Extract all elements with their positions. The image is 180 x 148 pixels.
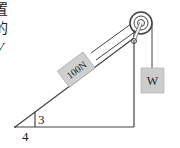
physics-diagram: 置 的 V 3 4 100N W: [0, 0, 180, 148]
pulley: [130, 12, 152, 44]
run-label: 4: [22, 129, 29, 144]
cropped-text-2: 的: [0, 21, 8, 36]
hanging-weight: W: [141, 68, 164, 93]
cropped-text-1: 置: [0, 2, 8, 17]
weight-label: W: [147, 74, 159, 88]
cropped-text-3: V: [0, 39, 6, 54]
rise-label: 3: [38, 112, 45, 127]
incline-vertex: [14, 126, 16, 128]
block-100n: 100N: [57, 52, 95, 87]
